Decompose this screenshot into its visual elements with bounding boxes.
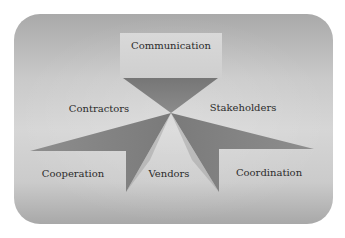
node-cooperation: Cooperation (42, 168, 104, 179)
node-contractors: Contractors (69, 103, 129, 114)
node-coordination: Coordination (236, 167, 302, 178)
node-vendors: Vendors (149, 168, 190, 179)
top-triangle (123, 78, 218, 113)
connector-shapes (0, 0, 345, 238)
node-stakeholders: Stakeholders (210, 102, 277, 113)
node-communication: Communication (131, 40, 211, 51)
